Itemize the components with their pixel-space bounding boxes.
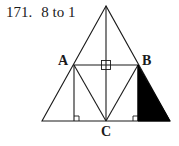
point-label-c: C [101,124,111,140]
right-angle-marker-a [74,116,79,121]
point-label-a: A [58,53,68,69]
shaded-triangle [138,65,170,121]
segment-bc [106,65,138,121]
segment-ac [74,65,106,121]
geometry-diagram [0,0,179,146]
right-angle-marker-b [133,116,138,121]
point-label-b: B [142,53,151,69]
